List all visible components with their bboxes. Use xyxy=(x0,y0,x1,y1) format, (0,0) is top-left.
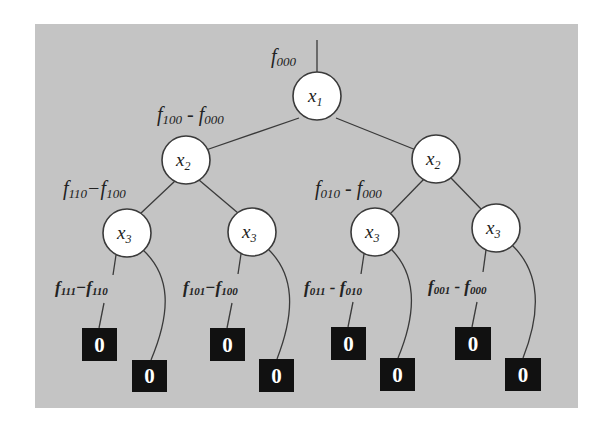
node-left-x2: x2 xyxy=(162,136,210,184)
node-right-x2: x2 xyxy=(412,135,460,183)
node-rl-x3: x3 xyxy=(351,208,399,256)
svg-text:0: 0 xyxy=(222,333,233,357)
svg-text:0: 0 xyxy=(468,332,479,356)
leaf-terminal: 0 xyxy=(132,360,167,392)
leaf-terminal: 0 xyxy=(455,327,491,360)
leaf-terminal: 0 xyxy=(380,358,415,391)
node-ll-x3: x3 xyxy=(103,209,151,257)
svg-text:0: 0 xyxy=(343,332,354,356)
node-sub: 2 xyxy=(184,159,190,173)
svg-text:0: 0 xyxy=(518,363,529,387)
node-sub: 2 xyxy=(434,158,440,172)
decision-tree-diagram: x1 x2 x2 x3 x3 x3 x3 f000 f100 - f000 f1… xyxy=(0,0,606,430)
leaf-terminal: 0 xyxy=(331,327,366,360)
svg-text:0: 0 xyxy=(144,364,155,388)
node-sub: 3 xyxy=(124,232,131,246)
node-sub: 1 xyxy=(316,95,322,109)
node-sub: 3 xyxy=(249,231,256,245)
svg-text:0: 0 xyxy=(271,364,282,388)
node-root: x1 xyxy=(293,72,341,120)
leaf-terminal: 0 xyxy=(82,328,117,361)
leaf-terminal: 0 xyxy=(210,328,245,361)
node-sub: 3 xyxy=(493,227,500,241)
leaf-terminal: 0 xyxy=(259,359,294,392)
leaf-terminal: 0 xyxy=(505,358,541,391)
node-lr-x3: x3 xyxy=(228,208,276,256)
node-rr-x3: x3 xyxy=(472,204,520,252)
svg-text:0: 0 xyxy=(392,363,403,387)
node-sub: 3 xyxy=(372,231,379,245)
svg-text:0: 0 xyxy=(94,333,105,357)
